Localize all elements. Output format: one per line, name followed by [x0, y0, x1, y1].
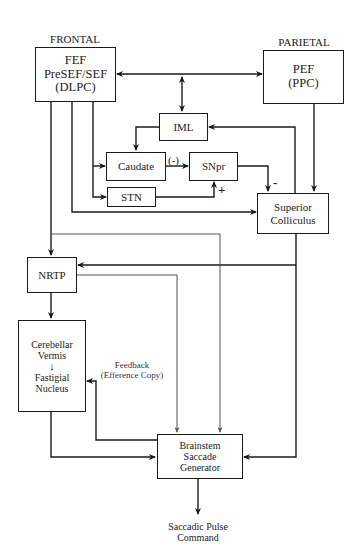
feedback-label: Feedback (Efference Copy)	[92, 361, 172, 381]
nucleus-label: Nucleus	[36, 383, 69, 394]
nrtp-label: NRTP	[38, 269, 65, 281]
output-label: Saccadic Pulse Command	[148, 521, 248, 543]
nrtp-node: NRTP	[27, 257, 77, 293]
excitatory-sign-stn: +	[218, 183, 225, 196]
iml-node: IML	[159, 113, 208, 141]
superior-colliculus-node: Superior Colliculus	[257, 193, 329, 234]
saccade-label: Saccade	[184, 451, 217, 462]
brainstem-node: Brainstem Saccade Generator	[157, 434, 243, 479]
superior-label: Superior	[274, 201, 312, 213]
parietal-region-label: PARIETAL	[268, 36, 340, 48]
colliculus-label: Colliculus	[270, 214, 315, 226]
cerebellar-node: Cerebellar Vermis ↓ Fastigial Nucleus	[18, 320, 86, 412]
snpr-node: SNpr	[189, 152, 238, 181]
inhibitory-sign-caudate: (-)	[168, 155, 179, 166]
presef-sef-label: PreSEF/SEF	[44, 68, 107, 82]
arrow-down-icon: ↓	[49, 361, 55, 372]
vermis-label: Vermis	[38, 350, 66, 361]
fastigial-label: Fastigial	[35, 372, 69, 383]
dlpc-label: (DLPC)	[55, 81, 95, 95]
pef-node: PEF (PPC)	[263, 50, 344, 104]
pef-label: PEF	[293, 63, 315, 77]
ppc-label: (PPC)	[288, 77, 319, 91]
snpr-label: SNpr	[202, 160, 225, 172]
fef-label: FEF	[65, 54, 87, 68]
iml-label: IML	[173, 121, 193, 133]
caudate-node: Caudate	[106, 152, 166, 181]
caudate-label: Caudate	[118, 160, 154, 172]
brainstem-label: Brainstem	[179, 440, 220, 451]
inhibitory-sign-snpr: -	[273, 176, 277, 189]
fef-node: FEF PreSEF/SEF (DLPC)	[35, 47, 116, 102]
stn-node: STN	[107, 187, 156, 207]
cerebellar-label: Cerebellar	[31, 339, 73, 350]
generator-label: Generator	[180, 462, 220, 473]
frontal-region-label: FRONTAL	[40, 33, 110, 45]
stn-label: STN	[121, 191, 142, 203]
